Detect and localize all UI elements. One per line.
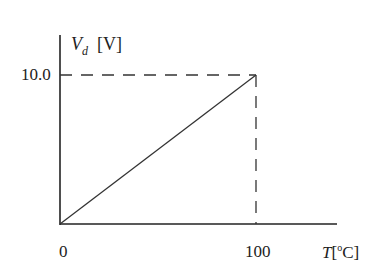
chart-plot-area xyxy=(0,0,387,273)
y-axis-subscript: d xyxy=(82,44,88,58)
y-axis-variable: V xyxy=(71,34,82,54)
x-axis-unit: C] xyxy=(342,243,359,262)
x-axis-label: T[oC] xyxy=(322,243,359,261)
x-tick-label-0: 0 xyxy=(59,243,68,260)
y-axis-unit: [V] xyxy=(97,34,122,54)
data-line xyxy=(60,75,256,224)
y-tick-label: 10.0 xyxy=(21,66,51,83)
x-tick-label-100: 100 xyxy=(245,243,271,260)
y-axis-label: Vd [V] xyxy=(71,35,122,57)
